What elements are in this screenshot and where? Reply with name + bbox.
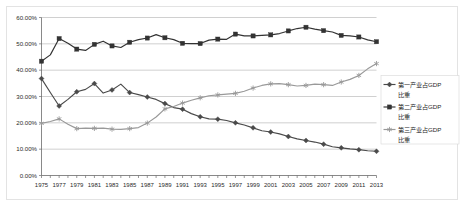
series-marker [92,42,96,46]
series-marker [233,32,237,36]
x-axis-tick-label: 1997 [229,182,243,188]
x-axis-tick-label: 2003 [282,182,296,188]
series-marker [304,25,308,29]
series-marker [357,35,361,39]
series-marker [216,37,220,41]
x-axis-tick-label: 2001 [264,182,278,188]
series-marker [374,149,379,154]
series-marker [163,36,167,40]
series-marker [339,145,344,150]
data-series [39,76,379,154]
series-line [42,27,377,61]
series-marker [321,142,326,147]
legend-label-line1: 第二产业占GDP [398,103,441,111]
x-axis-tick-label: 1991 [176,182,190,188]
x-axis-tick-label: 2009 [335,182,349,188]
legend-label-line1: 第一产业占GDP [398,81,441,89]
y-axis-tick-label: 10.00% [16,145,37,152]
legend-label-line1: 第三产业占GDP [398,126,441,134]
series-marker [251,125,256,130]
x-axis-tick-label: 1985 [123,182,137,188]
series-marker [145,95,150,100]
series-marker [180,107,185,112]
y-axis-tick-label: 0.00% [20,172,38,179]
series-marker [215,117,220,122]
x-axis-tick-label: 2007 [317,182,331,188]
x-axis-tick-label: 1999 [246,182,260,188]
x-axis-tick-label: 1993 [194,182,208,188]
y-axis-tick-label: 60.00% [16,14,37,21]
y-axis-tick-label: 30.00% [16,93,37,100]
series-marker [198,114,203,119]
y-axis-tick-label: 40.00% [16,66,37,73]
x-axis-tick-label: 2011 [352,182,366,188]
legend-label-line2: 比重 [398,91,410,99]
x-axis-tick-label: 1987 [141,182,155,188]
series-marker [162,101,167,106]
series-marker [286,134,291,139]
chart-plot: 60.00%50.00%40.00%30.00%20.00%10.00%0.00… [0,0,465,207]
series-marker [339,33,343,37]
series-marker [39,59,43,63]
x-axis-tick-label: 1975 [35,182,49,188]
series-marker [268,130,273,135]
series-marker [374,40,378,44]
series-marker [303,138,308,143]
series-line [42,79,377,152]
chart-legend: 第一产业占GDP比重第二产业占GDP比重第三产业占GDP比重 [381,76,459,145]
y-axis-labels: 60.00%50.00%40.00%30.00%20.00%10.00%0.00… [16,14,37,179]
x-axis-labels: 1975197719791981198319851987198919911993… [35,182,384,188]
series-marker [251,34,255,38]
x-axis-tick-label: 1983 [105,182,119,188]
series-marker [356,147,361,152]
series-marker [374,61,379,66]
series-marker [198,41,202,45]
legend-label-line2: 比重 [398,136,410,144]
y-axis-tick-label: 20.00% [16,119,37,126]
chart-container: 60.00%50.00%40.00%30.00%20.00%10.00%0.00… [0,0,465,207]
x-axis-tick-label: 2013 [370,182,384,188]
x-axis-tick-label: 2005 [299,182,313,188]
series-marker [269,33,273,37]
series-marker [180,41,184,45]
legend-label-line2: 比重 [398,113,410,121]
series-marker [233,120,238,125]
series-marker [75,47,79,51]
series-marker [57,36,61,40]
x-axis-tick-label: 1989 [158,182,172,188]
series-marker [286,29,290,33]
series-marker [145,36,149,40]
x-axis-tick-label: 1977 [52,182,66,188]
data-series-layer [39,25,379,154]
series-marker [322,29,326,33]
y-axis-tick-label: 50.00% [16,40,37,47]
legend-swatch-marker [387,105,391,109]
x-axis-tick-label: 1979 [70,182,84,188]
data-series [39,25,378,63]
axis-lines [42,18,377,179]
series-marker [110,44,114,48]
series-marker [128,40,132,44]
x-axis-tick-label: 1981 [88,182,102,188]
x-axis-tick-label: 1995 [211,182,225,188]
